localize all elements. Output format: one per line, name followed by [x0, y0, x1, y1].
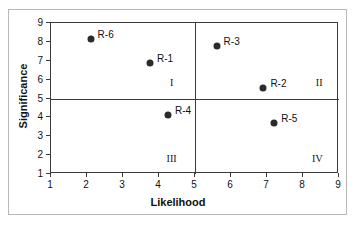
data-point	[213, 42, 220, 49]
x-tick-mark	[338, 173, 339, 177]
y-tick-mark	[46, 79, 50, 80]
y-tick-label: 6	[37, 73, 43, 84]
data-point	[271, 120, 278, 127]
data-point-label: R-1	[157, 52, 173, 63]
x-tick-mark	[122, 173, 123, 177]
y-tick-label: 4	[37, 111, 43, 122]
y-tick-label: 3	[37, 130, 43, 141]
x-tick-mark	[230, 173, 231, 177]
y-tick-mark	[46, 173, 50, 174]
x-tick-mark	[194, 173, 195, 177]
x-tick-mark	[302, 173, 303, 177]
quadrant-label: I	[170, 77, 173, 88]
data-point	[87, 36, 94, 43]
y-tick-mark	[46, 41, 50, 42]
y-tick-label: 2	[37, 149, 43, 160]
chart-figure: R-6R-1R-3R-2R-4R-5 IIIIIIIV 123456789 12…	[0, 0, 356, 225]
quadrant-label: III	[167, 152, 177, 163]
quadrant-divider-horizontal	[51, 99, 339, 100]
data-point-label: R-5	[281, 113, 297, 124]
data-point-label: R-4	[175, 105, 191, 116]
data-point-label: R-6	[98, 29, 114, 40]
y-axis-label: Significance	[17, 26, 29, 166]
y-tick-label: 8	[37, 35, 43, 46]
x-tick-label: 7	[263, 179, 269, 190]
y-tick-mark	[46, 116, 50, 117]
y-tick-label: 1	[37, 168, 43, 179]
x-tick-label: 8	[299, 179, 305, 190]
data-point	[165, 112, 172, 119]
x-tick-mark	[158, 173, 159, 177]
plot-area: R-6R-1R-3R-2R-4R-5 IIIIIIIV	[50, 22, 338, 173]
data-point	[147, 59, 154, 66]
x-tick-label: 4	[155, 179, 161, 190]
y-tick-mark	[46, 22, 50, 23]
y-tick-mark	[46, 98, 50, 99]
y-tick-label: 7	[37, 54, 43, 65]
x-tick-label: 1	[47, 179, 53, 190]
x-tick-mark	[266, 173, 267, 177]
x-tick-label: 5	[191, 179, 197, 190]
quadrant-label: II	[316, 77, 323, 88]
x-tick-label: 6	[227, 179, 233, 190]
y-axis-label-wrap: Significance	[14, 22, 28, 173]
x-tick-label: 2	[83, 179, 89, 190]
y-tick-mark	[46, 135, 50, 136]
x-tick-mark	[50, 173, 51, 177]
y-tick-mark	[46, 154, 50, 155]
x-tick-label: 3	[119, 179, 125, 190]
quadrant-label: IV	[312, 152, 323, 163]
y-tick-label: 5	[37, 92, 43, 103]
data-point-label: R-2	[270, 78, 286, 89]
x-tick-label: 9	[335, 179, 341, 190]
data-point	[260, 85, 267, 92]
x-tick-mark	[86, 173, 87, 177]
y-tick-mark	[46, 60, 50, 61]
y-tick-label: 9	[37, 17, 43, 28]
data-point-label: R-3	[224, 35, 240, 46]
x-axis-label: Likelihood	[0, 196, 356, 208]
